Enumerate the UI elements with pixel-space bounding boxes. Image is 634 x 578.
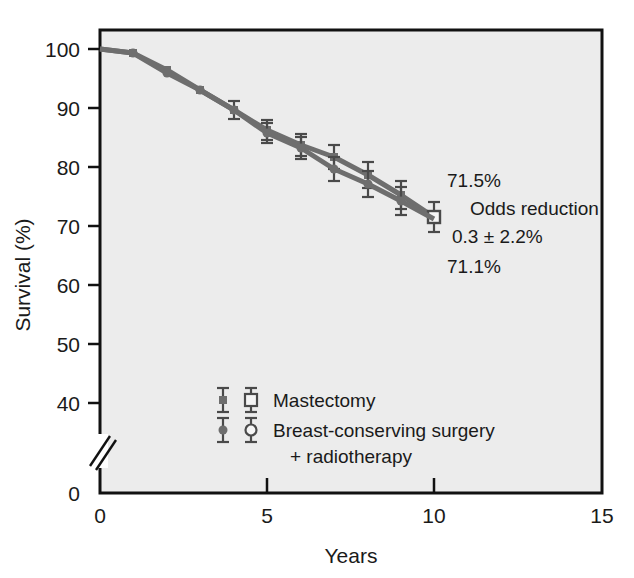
filled-circle-marker [230,106,239,115]
x-tick-label-10: 10 [422,504,445,527]
annotation-odds-reduction-title: Odds reduction [470,198,599,219]
filled-circle-marker [196,86,205,95]
x-tick-label-0: 0 [94,504,106,527]
y-axis-title: Survival (%) [11,218,34,331]
open-square-marker [245,394,257,406]
filled-circle-marker [364,180,373,189]
filled-square-marker [219,396,227,404]
y-tick-label-50: 50 [57,333,80,356]
x-tick-label-15: 15 [590,504,613,527]
filled-circle-marker [397,197,406,206]
legend-label-mastectomy: Mastectomy [273,390,376,411]
annotation-upper-value: 71.5% [447,170,501,191]
filled-circle-marker [129,49,138,58]
x-axis-title: Years [325,544,378,567]
filled-circle-marker [163,69,172,78]
y-tick-label-40: 40 [57,392,80,415]
y-tick-label-80: 80 [57,156,80,179]
survival-curve-figure: 100 90 80 70 60 50 40 0 Survival (%) 0 5… [0,0,634,578]
y-tick-label-60: 60 [57,274,80,297]
filled-circle-marker [297,144,306,153]
annotation-odds-reduction-value: 0.3 ± 2.2% [452,226,543,247]
y-tick-label-100: 100 [45,38,80,61]
y-tick-label-70: 70 [57,215,80,238]
filled-circle-marker [330,165,339,174]
legend-label-breast-conserving-line2: + radiotherapy [290,446,412,467]
y-tick-label-0: 0 [68,482,80,505]
filled-circle-marker [219,426,228,435]
annotation-lower-value: 71.1% [447,256,501,277]
filled-circle-marker [263,129,272,138]
x-tick-label-5: 5 [261,504,273,527]
open-circle-marker [246,425,257,436]
legend-label-breast-conserving: Breast-conserving surgery [273,420,495,441]
chart-svg: 100 90 80 70 60 50 40 0 Survival (%) 0 5… [0,0,634,578]
y-tick-label-90: 90 [57,97,80,120]
